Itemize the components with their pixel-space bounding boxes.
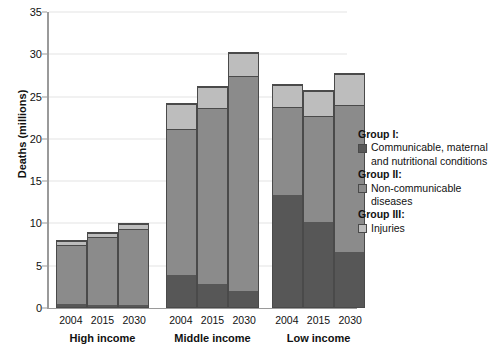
x-tick-label: 2030 [118, 314, 150, 326]
x-tick-label: 2015 [303, 314, 335, 326]
bar-segment-group-3 [229, 53, 258, 76]
y-axis-line [47, 12, 49, 308]
x-tick-label-row: 200420152030 [165, 314, 260, 326]
bar[interactable] [87, 232, 118, 308]
bar-segment-group-2 [229, 76, 258, 291]
x-axis-line [47, 308, 357, 309]
y-tick-label: 0 [36, 302, 42, 314]
group-label-middle-income: Middle income [152, 332, 273, 344]
y-tick-mark [42, 265, 47, 266]
x-tick-label: 2030 [228, 314, 260, 326]
bar[interactable] [166, 103, 197, 308]
x-tick-label: 2004 [55, 314, 87, 326]
group-1-swatch [358, 144, 367, 153]
stacked-bar-chart: Deaths (millions) 05101520253035 2004201… [0, 0, 504, 353]
bar-segment-group-1 [273, 195, 302, 307]
y-tick-label: 10 [30, 217, 42, 229]
legend-label: Non-communicable diseases [371, 182, 504, 209]
bar-segment-group-1 [167, 275, 196, 307]
bar-segment-group-2 [57, 245, 86, 304]
group-2-swatch [358, 184, 367, 193]
y-tick-label: 20 [30, 133, 42, 145]
bar-segment-group-1 [57, 304, 86, 307]
y-tick-label: 25 [30, 91, 42, 103]
legend-label: Communicable, maternal and nutritional c… [371, 141, 504, 168]
group-3-swatch [358, 224, 367, 233]
group-label-high-income: High income [42, 332, 163, 344]
bar-segment-group-3 [273, 85, 302, 106]
y-tick-mark [42, 308, 47, 309]
bar-group-middle-income [166, 12, 259, 308]
bar[interactable] [197, 86, 228, 308]
chart-legend: Group I:Communicable, maternal and nutri… [358, 128, 504, 235]
bar-segment-group-1 [304, 222, 333, 307]
legend-heading: Group I: [358, 128, 504, 141]
bar-segment-group-1 [198, 284, 227, 307]
y-axis-title: Deaths (millions) [16, 54, 28, 214]
legend-heading: Group II: [358, 168, 504, 181]
bar-segment-group-1 [88, 305, 117, 307]
legend-label: Injuries [371, 222, 504, 235]
bar-segment-group-3 [167, 104, 196, 129]
y-tick-mark [42, 223, 47, 224]
plot-area: 05101520253035 200420152030High income20… [47, 12, 347, 308]
y-tick-mark [42, 181, 47, 182]
y-tick-label: 15 [30, 175, 42, 187]
x-tick-label: 2015 [197, 314, 229, 326]
legend-heading: Group III: [358, 208, 504, 221]
y-tick-mark [42, 54, 47, 55]
bar-segment-group-3 [304, 91, 333, 116]
bar-segment-group-2 [119, 229, 148, 305]
y-tick-label: 35 [30, 6, 42, 18]
bar[interactable] [272, 84, 303, 308]
bar-segment-group-3 [335, 74, 364, 104]
bar-segment-group-1 [229, 291, 258, 307]
x-tick-label-row: 200420152030 [271, 314, 366, 326]
y-tick-mark [42, 96, 47, 97]
bar-segment-group-2 [273, 107, 302, 195]
x-tick-label-row: 200420152030 [55, 314, 150, 326]
legend-item[interactable]: Communicable, maternal and nutritional c… [358, 141, 504, 168]
bar-segment-group-2 [167, 129, 196, 274]
bar[interactable] [228, 52, 259, 308]
x-tick-label: 2015 [87, 314, 119, 326]
x-tick-label: 2030 [334, 314, 366, 326]
legend-item[interactable]: Injuries [358, 222, 504, 235]
x-tick-label: 2004 [271, 314, 303, 326]
group-label-low-income: Low income [258, 332, 379, 344]
bar[interactable] [118, 223, 149, 308]
bar-segment-group-3 [198, 87, 227, 108]
bar[interactable] [303, 90, 334, 308]
bar-segment-group-2 [88, 237, 117, 305]
bar-segment-group-1 [335, 252, 364, 307]
bar-group-low-income [272, 12, 365, 308]
bar-segment-group-2 [198, 108, 227, 284]
y-tick-label: 30 [30, 48, 42, 60]
y-tick-label: 5 [36, 260, 42, 272]
bar-group-high-income [56, 12, 149, 308]
y-tick-mark [42, 12, 47, 13]
bar-segment-group-1 [119, 305, 148, 307]
legend-item[interactable]: Non-communicable diseases [358, 182, 504, 209]
x-tick-label: 2004 [165, 314, 197, 326]
bar-segment-group-2 [304, 116, 333, 223]
bar[interactable] [56, 240, 87, 308]
y-tick-mark [42, 138, 47, 139]
